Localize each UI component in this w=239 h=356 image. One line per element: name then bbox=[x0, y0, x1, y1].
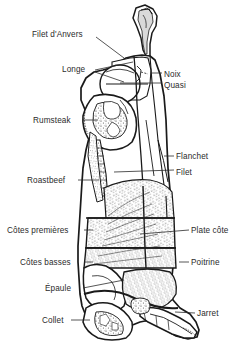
cut-label-poitrine: Poitrine bbox=[191, 258, 220, 267]
cut-label-epaule: Épaule bbox=[45, 284, 71, 293]
cut-label-flanchet: Flanchet bbox=[176, 152, 208, 161]
cut-label-filet-danvers: Filet d'Anvers bbox=[32, 30, 83, 39]
beef-cuts-figure: Filet d'AnversLongeNoixQuasiRumsteakFlan… bbox=[0, 0, 239, 356]
cut-label-jarret: Jarret bbox=[197, 309, 219, 318]
cut-label-filet: Filet bbox=[176, 168, 192, 177]
cut-label-quasi: Quasi bbox=[164, 81, 186, 90]
cut-label-collet: Collet bbox=[42, 316, 64, 325]
cut-label-cotes-premieres: Côtes premières bbox=[7, 226, 69, 235]
leader-line-filet-danvers bbox=[96, 37, 124, 58]
cut-label-plate-cote: Plate côte bbox=[191, 226, 228, 235]
cut-label-noix: Noix bbox=[164, 70, 181, 79]
cut-label-cotes-basses: Côtes basses bbox=[20, 258, 71, 267]
cut-label-longe: Longe bbox=[62, 65, 85, 74]
cut-label-rumsteak: Rumsteak bbox=[33, 116, 71, 125]
cut-label-roastbeef: Roastbeef bbox=[27, 176, 65, 185]
